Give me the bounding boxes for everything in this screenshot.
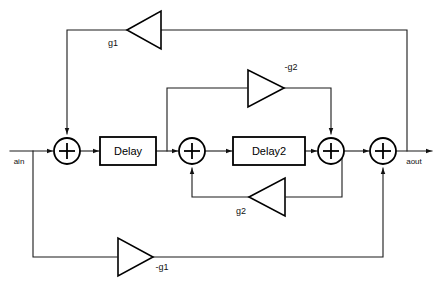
wire-neg-g1-to-sum4 <box>153 168 383 257</box>
gain-label-neg-g1: -g1 <box>155 262 168 272</box>
gain-label-g2: g2 <box>236 206 246 216</box>
gain-triangle-g2 <box>249 178 285 216</box>
gain-triangle-neg-g2 <box>248 70 284 107</box>
block-delay2-label: Delay2 <box>252 145 286 157</box>
wire-output-tap-to-g1 <box>161 30 407 151</box>
block-delay1-label: Delay <box>114 145 143 157</box>
block-delay2: Delay2 <box>233 137 305 165</box>
input-label-ain: ain <box>14 157 25 166</box>
diagram-canvas: Delay Delay2 g1 -g2 g2 -g1 ain aout <box>0 0 440 287</box>
block-delay1: Delay <box>100 137 156 165</box>
output-label-aout: aout <box>406 157 422 166</box>
adder-sum2 <box>179 138 205 164</box>
gain-label-neg-g2: -g2 <box>284 62 297 72</box>
signal-flow-diagram: Delay Delay2 g1 -g2 g2 -g1 ain aout <box>0 0 440 287</box>
wire-input-tap-to-neg-g1 <box>33 151 117 257</box>
adder-sum3 <box>318 138 344 164</box>
wire-g2-to-sum2 <box>192 168 249 197</box>
adder-sum4 <box>370 138 396 164</box>
gain-triangle-g1-top <box>127 11 161 49</box>
wire-neg-g2-to-sum3 <box>284 88 331 134</box>
gain-triangle-neg-g1 <box>118 238 153 276</box>
adder-sum1 <box>54 138 80 164</box>
gain-label-g1-top: g1 <box>108 38 118 48</box>
